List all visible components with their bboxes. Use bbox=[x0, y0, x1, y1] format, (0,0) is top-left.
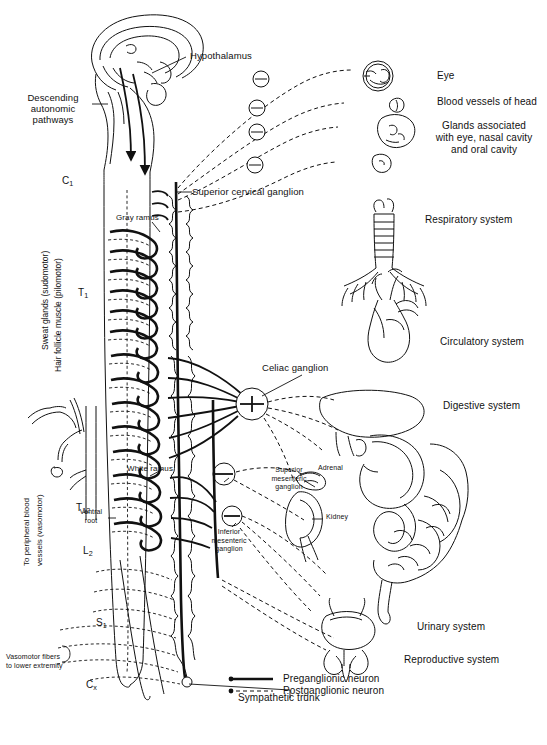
label-celiac-ganglion: Celiac ganglion bbox=[262, 362, 328, 373]
label-peripheral-blood-vessels-2: vessels (vasomotor) bbox=[35, 494, 45, 566]
level-marker-t1: T1 bbox=[78, 287, 88, 302]
head-vessel-illustration bbox=[389, 98, 404, 112]
label-vasomotor-fibers-lower-extremity: Vasomotor fibers to lower extremity bbox=[6, 653, 63, 670]
legend-graphics bbox=[229, 677, 273, 694]
heart-illustration bbox=[368, 269, 418, 362]
level-marker-l2: L2 bbox=[83, 545, 93, 560]
organ-label-head-vessels: Blood vessels of head bbox=[437, 96, 537, 108]
sacral-nerves bbox=[57, 556, 180, 700]
label-superior-mesenteric-ganglion: Superior mesenteric ganglion bbox=[258, 466, 320, 492]
brain-illustration bbox=[91, 15, 203, 186]
organ-label-glands: Glands associated with eye, nasal cavity… bbox=[424, 120, 544, 156]
small-gland-illustration bbox=[372, 154, 391, 172]
organ-label-respiratory: Respiratory system bbox=[425, 214, 512, 226]
organ-label-urinary: Urinary system bbox=[417, 621, 485, 633]
glands-illustration bbox=[378, 115, 415, 148]
inferior-mesenteric-ganglion bbox=[222, 506, 242, 526]
organ-label-circulatory: Circulatory system bbox=[440, 336, 524, 348]
level-marker-cx: Cx bbox=[86, 679, 97, 694]
spinal-nerve-rami bbox=[108, 191, 168, 550]
label-gray-ramus: Gray ramus bbox=[116, 213, 159, 223]
label-hypothalamus: Hypothalamus bbox=[190, 50, 252, 61]
level-marker-c1: C1 bbox=[62, 175, 73, 190]
figure-canvas: .s { fill:none; stroke:#111; stroke-widt… bbox=[0, 0, 547, 745]
digestive-illustration bbox=[320, 390, 468, 624]
respiratory-illustration bbox=[342, 199, 426, 306]
celiac-ganglion bbox=[236, 388, 268, 420]
level-marker-s1: S1 bbox=[96, 617, 107, 632]
organ-label-eye: Eye bbox=[437, 70, 455, 82]
eye-illustration bbox=[363, 61, 393, 91]
spinal-cord bbox=[104, 186, 150, 687]
legend-label-preganglionic: Preganglionic neuron bbox=[283, 673, 380, 685]
label-hair-follicle-muscle: Hair follicle muscle (pilomotor) bbox=[53, 258, 63, 372]
label-white-ramus: White ramus bbox=[127, 464, 173, 474]
label-sweat-glands: Sweat glands (sudomotor) bbox=[40, 251, 50, 350]
organ-label-reproductive: Reproductive system bbox=[404, 654, 499, 666]
label-adrenal: Adrenal bbox=[318, 464, 343, 473]
label-peripheral-blood-vessels: To peripheral blood bbox=[22, 498, 32, 566]
skin-appendages-illustration bbox=[28, 398, 84, 477]
head-fiber-ganglia bbox=[247, 71, 269, 173]
bladder-illustration bbox=[322, 598, 375, 666]
label-descending-autonomic-pathways: Descending autonomic pathways bbox=[14, 92, 92, 125]
leader-lines bbox=[62, 57, 323, 698]
label-inferior-mesenteric-ganglion: Inferior mesenteric ganglion bbox=[198, 528, 260, 554]
organ-label-digestive: Digestive system bbox=[443, 400, 520, 412]
level-marker-t12: T12 bbox=[76, 502, 90, 517]
label-superior-cervical-ganglion: Superior cervical ganglion bbox=[192, 186, 304, 197]
legend-label-postganglionic: Postganglionic neuron bbox=[283, 685, 384, 697]
label-kidney: Kidney bbox=[326, 513, 348, 522]
